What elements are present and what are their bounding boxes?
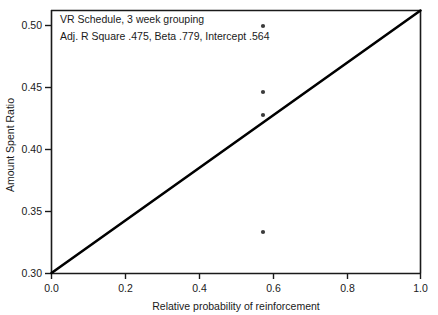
y-axis-title: Amount Spent Ratio xyxy=(4,98,16,192)
x-tick-label-00: 0.0 xyxy=(44,282,59,294)
data-point xyxy=(261,90,265,94)
data-point xyxy=(261,230,265,234)
data-point xyxy=(261,24,265,28)
data-points xyxy=(261,24,265,234)
y-tick-label-035: 0.35 xyxy=(22,205,43,217)
chart-canvas: 0.30 0.35 0.40 0.45 0.50 0.0 0.2 0.4 0.6… xyxy=(0,0,438,315)
x-tick-label-06: 0.6 xyxy=(266,282,281,294)
y-tick-label-050: 0.50 xyxy=(22,19,43,31)
annotation-line-2: Adj. R Square .475, Beta .779, Intercept… xyxy=(60,30,270,42)
x-axis-title: Relative probability of reinforcement xyxy=(152,300,320,312)
y-tick-label-040: 0.40 xyxy=(22,143,43,155)
y-tick-label-030: 0.30 xyxy=(22,267,43,279)
x-axis-ticks xyxy=(52,274,421,280)
y-axis-ticks xyxy=(45,26,52,274)
annotation-line-1: VR Schedule, 3 week grouping xyxy=(60,13,204,25)
chart-annotation: VR Schedule, 3 week grouping Adj. R Squa… xyxy=(60,13,270,42)
y-axis-tick-labels: 0.30 0.35 0.40 0.45 0.50 xyxy=(22,19,43,279)
regression-line xyxy=(52,11,421,274)
x-tick-label-10: 1.0 xyxy=(413,282,428,294)
y-tick-label-045: 0.45 xyxy=(22,81,43,93)
x-tick-label-08: 0.8 xyxy=(340,282,355,294)
x-axis-tick-labels: 0.0 0.2 0.4 0.6 0.8 1.0 xyxy=(44,282,428,294)
scatter-plot-figure: 0.30 0.35 0.40 0.45 0.50 0.0 0.2 0.4 0.6… xyxy=(0,0,438,315)
data-point xyxy=(261,113,265,117)
x-tick-label-04: 0.4 xyxy=(192,282,207,294)
x-tick-label-02: 0.2 xyxy=(118,282,133,294)
